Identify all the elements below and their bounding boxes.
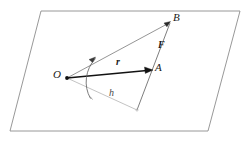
label-vector-f: F [158,40,165,50]
rotation-arc [86,59,95,99]
label-point-b: B [173,12,180,23]
label-origin-o: O [53,69,61,80]
torque-diagram-figure: O A B r F h [0,0,249,143]
diagram-canvas [0,0,249,143]
point-marker-icon-origin [65,76,69,80]
label-point-a: A [155,62,162,73]
label-vector-r: r [116,57,120,67]
line-moment-arm-h [67,78,137,110]
label-moment-arm-h: h [109,88,114,98]
line-o-to-b [67,23,169,78]
plane-parallelogram [10,11,240,131]
line-force-axis [137,23,170,110]
